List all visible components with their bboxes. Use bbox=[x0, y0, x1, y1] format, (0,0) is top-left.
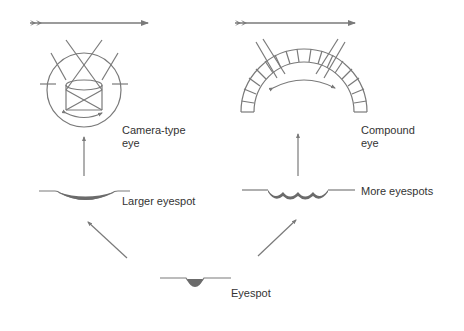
left-lineage-arrow bbox=[30, 20, 148, 26]
eyespot-label: Eyespot bbox=[231, 287, 271, 300]
compound-eye-illustration bbox=[241, 39, 367, 112]
compound-eye-label: Compound eye bbox=[361, 124, 415, 150]
more-eyespots-illustration bbox=[242, 190, 355, 200]
larger-eyespot-label: Larger eyespot bbox=[122, 195, 195, 208]
larger-eyespot-illustration bbox=[39, 191, 130, 200]
right-lineage-arrow bbox=[235, 20, 355, 26]
arrow-eyespot-to-more bbox=[258, 220, 296, 256]
more-eyespots-label: More eyespots bbox=[361, 185, 433, 198]
eyespot-illustration bbox=[160, 278, 231, 287]
camera-type-eye-illustration bbox=[40, 40, 128, 127]
arrow-eyespot-to-larger bbox=[88, 222, 127, 258]
eye-evolution-diagram bbox=[0, 0, 464, 331]
camera-type-eye-label: Camera-type eye bbox=[122, 124, 186, 150]
